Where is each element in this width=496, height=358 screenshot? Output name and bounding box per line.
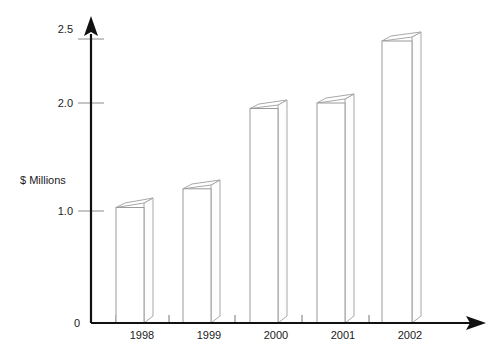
x-category-label-1998: 1998 [130,329,154,341]
y-tick-label-2.5: 2.5 [58,23,73,35]
y-axis-title: $ Millions [20,174,66,186]
x-category-label-2002: 2002 [398,329,422,341]
y-axis-arrowhead [84,16,98,36]
chart-canvas: 2.5 2.0 1.0 0 $ Millions 1998 1999 2000 … [0,0,496,358]
bar-face-2001 [317,103,345,323]
bar-face-2002 [382,41,412,323]
y-tick-label-0: 0 [74,317,80,329]
bar-side-2002 [412,32,421,323]
x-category-label-2000: 2000 [264,329,288,341]
bar-side-2000 [278,100,287,323]
bar-face-2000 [250,109,278,324]
bar-face-1998 [116,208,144,324]
bar-1999 [183,180,220,323]
bar-2001 [317,94,354,323]
bar-1998 [116,198,153,323]
x-category-label-1999: 1999 [197,329,221,341]
bar-chart: 2.5 2.0 1.0 0 $ Millions 1998 1999 2000 … [0,0,496,358]
bar-side-2001 [345,94,354,323]
bar-2000 [250,100,287,323]
x-category-label-2001: 2001 [331,329,355,341]
bar-side-1998 [144,198,153,323]
bar-side-1999 [211,180,220,323]
y-tick-label-2.0: 2.0 [58,97,73,109]
bar-face-1999 [183,189,211,323]
bar-2002 [382,32,421,323]
y-tick-label-1.0: 1.0 [58,205,73,217]
